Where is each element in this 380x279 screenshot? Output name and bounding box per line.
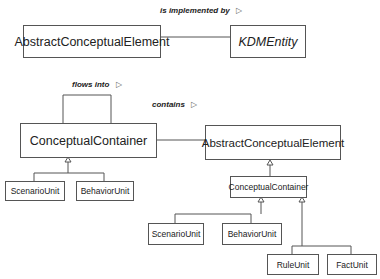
contains-label: contains ▷	[152, 100, 197, 109]
class-abstract-conceptual-element-right[interactable]: AbstractConceptualElement	[205, 125, 341, 160]
class-name: ScenarioUnit	[152, 229, 201, 239]
class-rule-unit[interactable]: RuleUnit	[267, 254, 319, 275]
class-name: RuleUnit	[277, 260, 310, 270]
class-fact-unit[interactable]: FactUnit	[327, 254, 377, 275]
is-implemented-by-label: is implemented by ▷	[160, 6, 242, 15]
class-name: BehaviorUnit	[81, 186, 130, 196]
class-kdm-entity[interactable]: KDMEntity	[230, 25, 306, 58]
class-name: AbstractConceptualElement	[202, 137, 345, 149]
class-abstract-conceptual-element-top[interactable]: AbstractConceptualElement	[23, 25, 161, 58]
class-conceptual-container-left[interactable]: ConceptualContainer	[20, 123, 157, 158]
direction-arrow-icon: ▷	[116, 80, 122, 89]
class-name: ConceptualContainer	[229, 182, 309, 192]
direction-arrow-icon: ▷	[191, 100, 197, 109]
class-scenario-unit-right[interactable]: ScenarioUnit	[148, 223, 204, 245]
direction-arrow-icon: ▷	[236, 6, 242, 15]
class-behavior-unit-right[interactable]: BehaviorUnit	[222, 223, 282, 245]
class-name: BehaviorUnit	[228, 229, 277, 239]
class-name: KDMEntity	[238, 35, 297, 49]
class-behavior-unit-left[interactable]: BehaviorUnit	[76, 181, 134, 201]
class-scenario-unit-left[interactable]: ScenarioUnit	[5, 181, 65, 201]
class-name: ConceptualContainer	[30, 134, 147, 148]
class-name: ScenarioUnit	[11, 186, 60, 196]
flows-into-label: flows into ▷	[72, 80, 122, 89]
class-name: AbstractConceptualElement	[15, 35, 170, 49]
class-conceptual-container-right[interactable]: ConceptualContainer	[230, 176, 307, 198]
class-name: FactUnit	[336, 260, 368, 270]
